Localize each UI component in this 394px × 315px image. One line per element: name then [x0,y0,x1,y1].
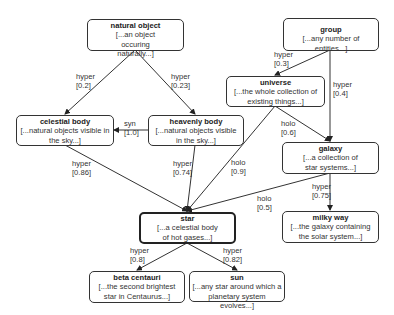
edge-weight: [0.3] [274,59,293,68]
edge-label-group-galaxy: hyper [0.4] [333,80,352,98]
node-gloss: [...a collection of star systems...] [283,153,378,172]
node-title: star [141,214,234,223]
node-title: galaxy [283,144,378,153]
edge-weight: [1.0] [124,128,139,137]
node-title: beta centauri [90,273,184,282]
node-celestial-body[interactable]: celestial body [...natural objects visib… [16,115,114,146]
edge-relation: holo [231,158,246,167]
edge-weight: [0.74] [173,168,192,177]
edge-label-universe-star: holo [0.9] [231,158,246,176]
edge-relation: holo [281,119,296,128]
node-gloss: [...natural objects visible in the sky..… [17,126,113,145]
edge-label-heavenly-body-star: hyper [0.74] [173,159,192,177]
edge-label-natural-object-celestial-body: hyper [0.2] [76,72,95,90]
edge-label-galaxy-star: holo [0.5] [257,194,272,212]
node-universe[interactable]: universe [...the whole collection of exi… [226,76,325,107]
node-gloss: [...any star around which a planetary sy… [190,282,284,310]
edge-weight: [0.5] [257,203,272,212]
node-gloss: [...a celestial body of hot gases...] [141,223,234,242]
edge-label-star-beta-centauri: hyper [0.8] [130,246,149,264]
node-title: sun [190,273,284,282]
edge-weight: [0.75] [312,191,331,200]
edge-label-universe-galaxy: holo [0.6] [281,119,296,137]
node-gloss: [...any number of entities...] [284,34,378,53]
node-milky-way[interactable]: milky way [...the galaxy containing the … [282,211,379,243]
node-sun[interactable]: sun [...any star around which a planetar… [189,271,285,302]
node-title: milky way [283,213,378,222]
edge-weight: [0.4] [333,89,352,98]
edge-weight: [0.86] [72,168,91,177]
edge-relation: hyper [171,72,190,81]
edge-label-celestial-body-star: hyper [0.86] [72,159,91,177]
node-beta-centauri[interactable]: beta centauri [...the second brightest s… [89,271,185,303]
edge-relation: hyper [333,80,352,89]
edge-relation: hyper [274,50,293,59]
edge-relation: holo [257,194,272,203]
edge-relation: hyper [223,246,242,255]
edge-label-galaxy-milky-way: hyper [0.75] [312,182,331,200]
node-star[interactable]: star [...a celestial body of hot gases..… [139,212,236,244]
node-title: heavenly body [149,117,243,126]
node-group[interactable]: group [...any number of entities...] [283,18,379,51]
edge-label-heavenly-body-celestial-body: syn [1.0] [124,119,139,137]
node-title: celestial body [17,117,113,126]
edge-weight: [0.23] [171,81,190,90]
edge-celestial-body-star [65,145,187,211]
edge-weight: [0.2] [76,81,95,90]
edge-weight: [0.8] [130,255,149,264]
node-natural-object[interactable]: natural object [...an object occuring na… [87,19,184,51]
edge-label-star-sun: hyper [0.82] [223,246,242,264]
edge-relation: hyper [312,182,331,191]
edge-relation: hyper [130,246,149,255]
node-gloss: [...the galaxy containing the solar syst… [283,222,378,241]
node-title: natural object [88,21,183,30]
edge-relation: hyper [173,159,192,168]
node-title: group [284,25,378,34]
node-heavenly-body[interactable]: heavenly body [...natural objects visibl… [148,115,244,146]
node-gloss: [...natural objects visible in the sky..… [149,126,243,145]
edge-label-group-universe: hyper [0.3] [274,50,293,68]
edge-heavenly-body-star [187,145,195,211]
edge-label-natural-object-heavenly-body: hyper [0.23] [171,72,190,90]
edge-relation: hyper [72,159,91,168]
edge-weight: [0.6] [281,128,296,137]
edge-weight: [0.9] [231,167,246,176]
edge-weight: [0.82] [223,255,242,264]
node-gloss: [...the second brightest star in Centaur… [90,282,184,301]
node-title: universe [227,78,324,87]
node-galaxy[interactable]: galaxy [...a collection of star systems.… [282,142,379,174]
edge-relation: syn [124,119,139,128]
node-gloss: [...the whole collection of existing thi… [227,87,324,106]
node-gloss: [...an object occuring naturally...] [88,30,183,58]
edge-relation: hyper [76,72,95,81]
